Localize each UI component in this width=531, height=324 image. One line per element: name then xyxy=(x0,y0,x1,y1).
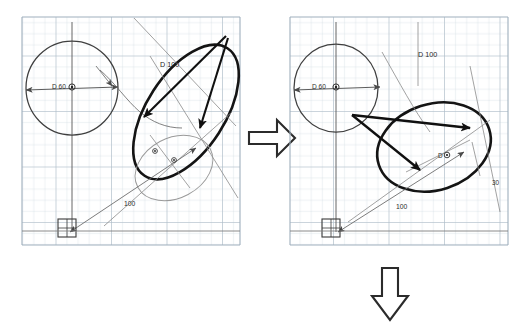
scanned-drawing-svg: D 60 D 100 100 xyxy=(0,0,531,324)
right-label-d-small: D xyxy=(438,152,443,159)
left-panel-grid xyxy=(22,17,240,245)
left-label-d60: D 60 xyxy=(52,83,66,90)
right-panel: D 60 D 100 100 D 30 xyxy=(290,17,508,245)
left-panel: D 60 D 100 100 xyxy=(22,17,260,245)
right-label-d60: D 60 xyxy=(312,83,326,90)
right-label-angle30: 30 xyxy=(492,179,500,186)
right-label-d100: D 100 xyxy=(418,50,437,59)
right-label-dim100: 100 xyxy=(396,203,408,210)
left-label-dim100: 100 xyxy=(124,200,136,207)
left-label-d100: D 100 xyxy=(160,60,179,69)
drawing-canvas: D 60 D 100 100 xyxy=(0,0,531,324)
